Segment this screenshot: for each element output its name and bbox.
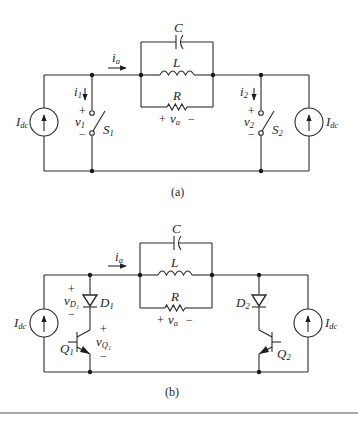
node-dot — [259, 169, 263, 173]
node-dot — [88, 370, 92, 374]
inductor-label: L — [170, 255, 178, 270]
circuit-b: C L R + va − ia Idc Idc D1 + vD₁ — [13, 221, 338, 399]
resistor-label: R — [170, 289, 179, 304]
right-idc-label: Idc — [325, 114, 339, 130]
q1-label: Q1 — [60, 341, 74, 357]
circuit-figure: C L R + va − ia Idc Idc S1 — [0, 0, 358, 421]
node-dot — [211, 73, 215, 77]
va-minus: − — [186, 313, 193, 327]
vd1-minus: − — [68, 307, 75, 321]
i2-label: i2 — [240, 84, 249, 100]
right-idc-label: Idc — [324, 315, 338, 331]
va-minus: − — [188, 112, 195, 126]
resistor-label: R — [172, 88, 181, 103]
node-dot — [257, 273, 261, 277]
vq1-label: vQ₁ — [96, 334, 111, 350]
v1-minus: − — [79, 127, 86, 141]
caption-a: (a) — [171, 185, 184, 199]
diode-d2-icon — [252, 295, 266, 307]
node-dot — [210, 273, 214, 277]
node-dot — [139, 73, 143, 77]
caption-b: (b) — [165, 385, 179, 399]
vq1-minus: − — [100, 349, 107, 363]
resistor-icon — [165, 305, 185, 311]
node-dot — [257, 370, 261, 374]
capacitor-label: C — [174, 20, 183, 35]
right-current-source-icon — [294, 309, 322, 337]
inductor-label: L — [172, 55, 180, 70]
left-current-source-icon — [30, 309, 58, 337]
node-dot — [90, 73, 94, 77]
capacitor-label: C — [172, 221, 181, 236]
node-dot — [259, 73, 263, 77]
s1-label: S1 — [103, 122, 114, 138]
s2-label: S2 — [272, 122, 284, 138]
node-dot — [88, 273, 92, 277]
left-current-source-icon — [30, 108, 58, 136]
va-plus: + — [157, 313, 164, 327]
circuit-a: C L R + va − ia Idc Idc S1 — [15, 20, 339, 199]
node-dot — [90, 169, 94, 173]
diode-d1-icon — [83, 295, 97, 307]
va-plus: + — [159, 112, 166, 126]
ia-label: ia — [112, 50, 120, 66]
va-label: va — [168, 312, 178, 328]
d1-label: D1 — [99, 295, 114, 311]
v2-minus: − — [248, 127, 255, 141]
left-idc-label: Idc — [15, 114, 29, 130]
d2-label: D2 — [235, 295, 250, 311]
i1-label: i1 — [74, 84, 82, 100]
node-dot — [138, 273, 142, 277]
ia-label: ia — [115, 249, 123, 265]
inductor-icon — [158, 271, 192, 275]
right-current-source-icon — [295, 108, 323, 136]
resistor-icon — [167, 104, 187, 110]
inductor-icon — [160, 71, 194, 75]
left-idc-label: Idc — [13, 315, 27, 331]
q2-label: Q2 — [277, 346, 291, 362]
va-label: va — [170, 111, 180, 127]
